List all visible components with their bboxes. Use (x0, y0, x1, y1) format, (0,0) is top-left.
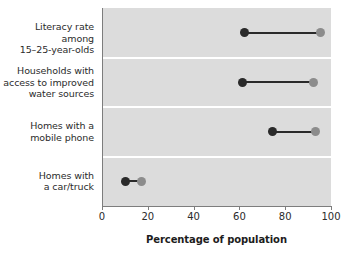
x-tick-label: 100 (321, 211, 340, 222)
category-label-line: water sources (0, 88, 94, 100)
x-tick (194, 206, 195, 210)
category-axis-labels: Literacy rate among15–25-year-oldsHouseh… (0, 8, 98, 206)
x-axis-line (102, 206, 331, 207)
category-label-line: Homes with a (0, 120, 94, 132)
category-label-line: Households with (0, 65, 94, 77)
x-tick (331, 206, 332, 210)
category-label-line: mobile phone (0, 132, 94, 144)
connector-line (272, 131, 316, 133)
x-tick-label: 20 (141, 211, 154, 222)
category-label: Homes with amobile phone (0, 120, 94, 143)
category-label-line: Literacy rate among (0, 21, 94, 44)
data-point-end (311, 127, 320, 136)
category-label: Literacy rate among15–25-year-olds (0, 21, 94, 56)
data-point-end (309, 78, 318, 87)
dumbbell-row (103, 8, 331, 58)
dumbbell-row (103, 58, 331, 108)
category-label-line: Homes with (0, 170, 94, 182)
x-tick-label: 80 (279, 211, 292, 222)
y-axis-spine (102, 8, 103, 206)
category-label-line: a car/truck (0, 181, 94, 193)
x-tick-label: 60 (233, 211, 246, 222)
plot-panel (102, 8, 331, 206)
category-label-line: 15–25-year-olds (0, 44, 94, 56)
data-point-end (316, 28, 325, 37)
dumbbell-chart: Literacy rate among15–25-year-oldsHouseh… (0, 0, 345, 260)
x-axis-title: Percentage of population (102, 234, 331, 245)
dumbbell-row (103, 157, 331, 207)
x-tick (239, 206, 240, 210)
x-tick-label: 40 (187, 211, 200, 222)
data-point-end (137, 177, 146, 186)
x-tick-label: 0 (99, 211, 105, 222)
data-point-start (121, 177, 130, 186)
category-label: Homes witha car/truck (0, 170, 94, 193)
connector-line (245, 32, 321, 34)
x-tick (285, 206, 286, 210)
category-label: Households withaccess to improvedwater s… (0, 65, 94, 100)
data-point-start (240, 28, 249, 37)
data-point-start (238, 78, 247, 87)
x-tick (148, 206, 149, 210)
category-label-line: access to improved (0, 77, 94, 89)
dumbbell-row (103, 107, 331, 157)
x-tick (102, 206, 103, 210)
data-point-start (268, 127, 277, 136)
connector-line (243, 81, 314, 83)
